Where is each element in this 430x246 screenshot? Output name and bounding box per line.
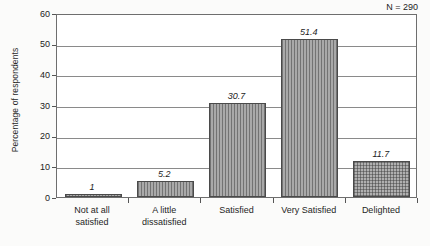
x-axis-category-label-line: Delighted (336, 205, 426, 217)
bar (353, 161, 410, 197)
bar (137, 181, 194, 197)
y-axis-tick-label: 0 (28, 194, 50, 203)
x-axis-category-label-line: dissatisfied (119, 217, 209, 229)
bar-value-label: 51.4 (279, 27, 339, 37)
x-axis-tick-mark (417, 198, 418, 203)
x-axis-tick-mark (273, 198, 274, 203)
x-axis-tick-mark (200, 198, 201, 203)
x-axis-tick-mark (345, 198, 346, 203)
bar-value-label: 5.2 (134, 169, 194, 179)
y-axis-tick-label: 20 (28, 132, 50, 141)
bar (209, 103, 266, 197)
bar-value-label: 1 (62, 182, 122, 192)
y-axis-tick-label: 60 (28, 10, 50, 19)
y-axis-title: Percentage of respondents (8, 0, 22, 200)
y-axis-tick-label: 50 (28, 40, 50, 49)
y-axis-tick-label: 10 (28, 163, 50, 172)
bar-value-label: 30.7 (207, 91, 267, 101)
x-axis-category-label: Delighted (336, 205, 426, 217)
y-axis-tick-mark (52, 198, 56, 199)
sample-size-annotation: N = 290 (386, 2, 418, 12)
gridline (57, 76, 416, 77)
bar (65, 194, 122, 197)
plot-area (56, 14, 417, 198)
chart-figure: Percentage of respondents 0102030405060 … (0, 0, 430, 246)
y-axis-tick-label: 30 (28, 102, 50, 111)
bar (281, 39, 338, 197)
y-axis-tick-label: 40 (28, 71, 50, 80)
gridline (57, 46, 416, 47)
bar-value-label: 11.7 (351, 149, 411, 159)
x-axis-tick-mark (128, 198, 129, 203)
